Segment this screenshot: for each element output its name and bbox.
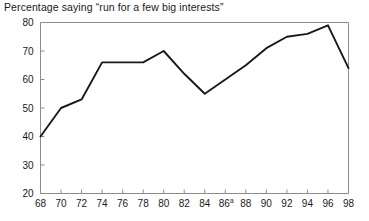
y-tick-label: 70 [22,46,34,57]
x-tick-label: 68 [35,198,47,209]
x-tick-label: 84 [199,198,211,209]
x-tick-label: 80 [158,198,170,209]
chart-figure: Percentage saying “run for a few big int… [0,0,369,221]
y-axis-tick-labels: 20304050607080 [22,17,34,199]
y-tick-label: 20 [22,188,34,199]
x-tick-label: 72 [76,198,88,209]
x-tick-label: 88 [240,198,252,209]
x-tick-label: 98 [343,198,355,209]
y-tick-label: 50 [22,103,34,114]
y-tick-label: 60 [22,74,34,85]
x-tick-label: 90 [261,198,273,209]
x-axis-tick-labels: 68707274767880828486a889092949698 [35,197,355,209]
data-series-line [41,25,349,136]
data-line [41,25,349,136]
x-axis-ticks [41,190,349,194]
y-tick-label: 30 [22,160,34,171]
x-tick-label: 70 [55,198,67,209]
x-tick-label: 92 [281,198,293,209]
x-tick-label: 74 [97,198,109,209]
y-axis-ticks [41,23,45,194]
line-chart-plot: 20304050607080 68707274767880828486a8890… [0,0,369,221]
x-tick-label: 78 [138,198,150,209]
x-tick-label: 82 [179,198,191,209]
x-tick-label: 96 [322,198,334,209]
x-tick-label: 86a [219,197,234,209]
y-tick-label: 80 [22,17,34,28]
y-tick-label: 40 [22,131,34,142]
x-tick-label: 76 [117,198,129,209]
axis-frame [41,23,349,194]
x-tick-label: 94 [302,198,314,209]
